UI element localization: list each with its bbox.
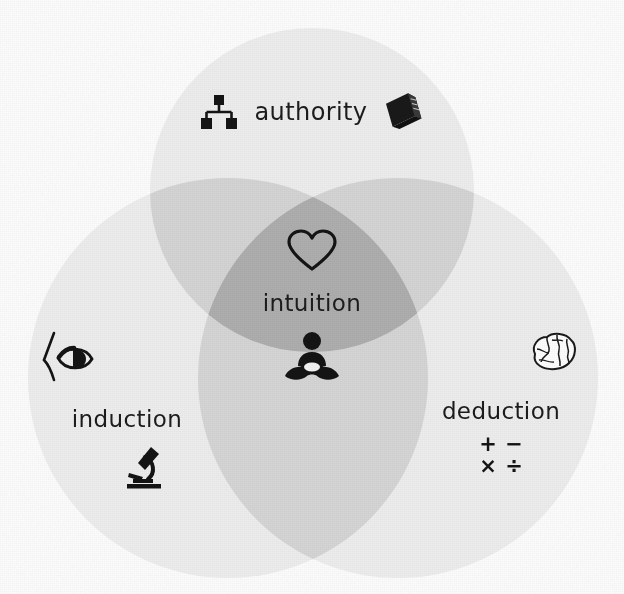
set-label-deduction: deduction (442, 398, 560, 424)
book-icon (383, 92, 425, 132)
divide-operator: ÷ (505, 456, 523, 477)
intersection-intuition: intuition (212, 228, 412, 385)
brain-icon (526, 330, 580, 376)
eye-icon (40, 330, 100, 384)
heart-icon (286, 228, 338, 274)
meditating-person-icon (281, 331, 343, 385)
microscope-icon (121, 443, 169, 491)
venn-diagram: authority (0, 0, 624, 594)
set-induction: induction (22, 330, 232, 491)
set-label-induction: induction (72, 406, 182, 432)
times-operator: × (479, 456, 497, 477)
plus-operator: + (479, 434, 497, 455)
minus-operator: − (505, 434, 523, 455)
intersection-label-intuition: intuition (263, 290, 362, 316)
set-deduction: deduction + − × ÷ (396, 330, 606, 477)
math-operators-icon: + − × ÷ (475, 433, 527, 477)
hierarchy-icon (199, 94, 239, 130)
set-label-authority: authority (255, 100, 368, 124)
set-authority: authority (150, 92, 474, 132)
